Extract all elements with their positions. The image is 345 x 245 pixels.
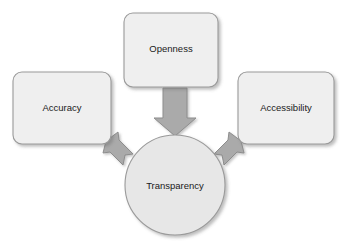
node-label-accessibility: Accessibility [260, 102, 312, 113]
transparency-concept-diagram: Transparency Openness Accuracy Accessibi… [0, 0, 345, 245]
diagram-canvas: Transparency Openness Accuracy Accessibi… [0, 0, 345, 245]
down-arrow-icon [154, 88, 196, 136]
node-transparency[interactable]: Transparency [125, 135, 225, 235]
node-accessibility[interactable]: Accessibility [238, 72, 334, 144]
arrow-openness-to-transparency [154, 88, 196, 136]
node-label-openness: Openness [149, 43, 193, 54]
node-accuracy[interactable]: Accuracy [13, 72, 111, 144]
node-openness[interactable]: Openness [124, 13, 218, 87]
node-label-transparency: Transparency [146, 180, 204, 191]
node-label-accuracy: Accuracy [42, 102, 81, 113]
